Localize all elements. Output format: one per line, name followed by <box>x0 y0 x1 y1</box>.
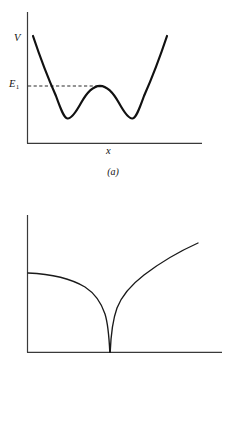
axis-label-x: x <box>106 146 111 157</box>
frequency-curve-above <box>110 243 198 352</box>
energy-level-label-e1-base: E <box>9 78 15 89</box>
potential-curve <box>33 36 167 119</box>
energy-level-label-e1-sub: 1 <box>16 83 20 91</box>
frequency-curve-below <box>28 273 110 352</box>
figure-container: V E1 x (a) ω E1 E (b) <box>0 0 226 423</box>
panel-b-frequency: ω E1 E (b) <box>0 195 226 423</box>
panel-caption-a: (a) <box>0 166 226 177</box>
panel-b-plot <box>0 195 226 423</box>
energy-level-label-e1: E1 <box>9 79 19 90</box>
axis-label-v: V <box>14 33 20 44</box>
panel-a-potential: V E1 x (a) <box>0 0 226 195</box>
